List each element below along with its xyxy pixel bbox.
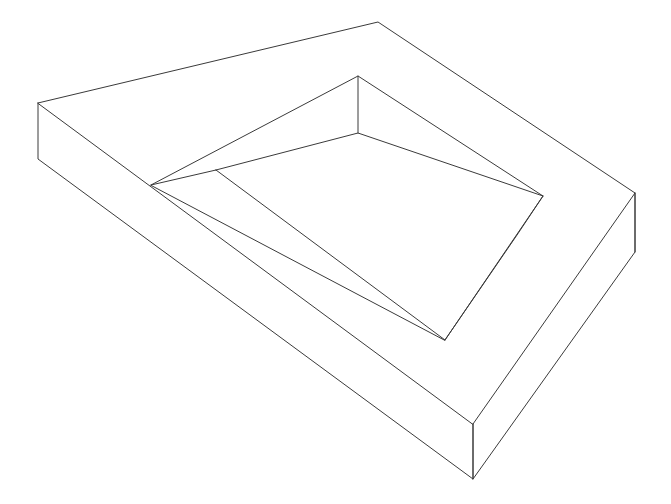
drawing-canvas [0, 0, 671, 504]
isometric-tray-drawing [0, 0, 671, 504]
